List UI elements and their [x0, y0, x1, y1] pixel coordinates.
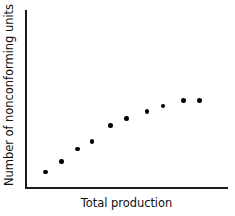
x-axis-title: Total production — [25, 196, 228, 210]
y-axis-title: Number of nonconforming units — [0, 0, 18, 190]
data-point — [108, 123, 113, 128]
data-point — [124, 116, 129, 121]
data-point — [90, 139, 95, 144]
data-point — [75, 147, 80, 152]
data-point — [161, 104, 166, 109]
data-point — [145, 109, 150, 114]
data-point — [59, 159, 64, 164]
x-axis-line — [25, 187, 228, 189]
y-axis-line — [25, 10, 27, 189]
data-point — [43, 170, 48, 175]
plot-area — [25, 10, 228, 188]
data-point — [197, 98, 202, 103]
scatter-plot-figure: Number of nonconforming units Total prod… — [0, 0, 235, 216]
data-point — [181, 98, 186, 103]
